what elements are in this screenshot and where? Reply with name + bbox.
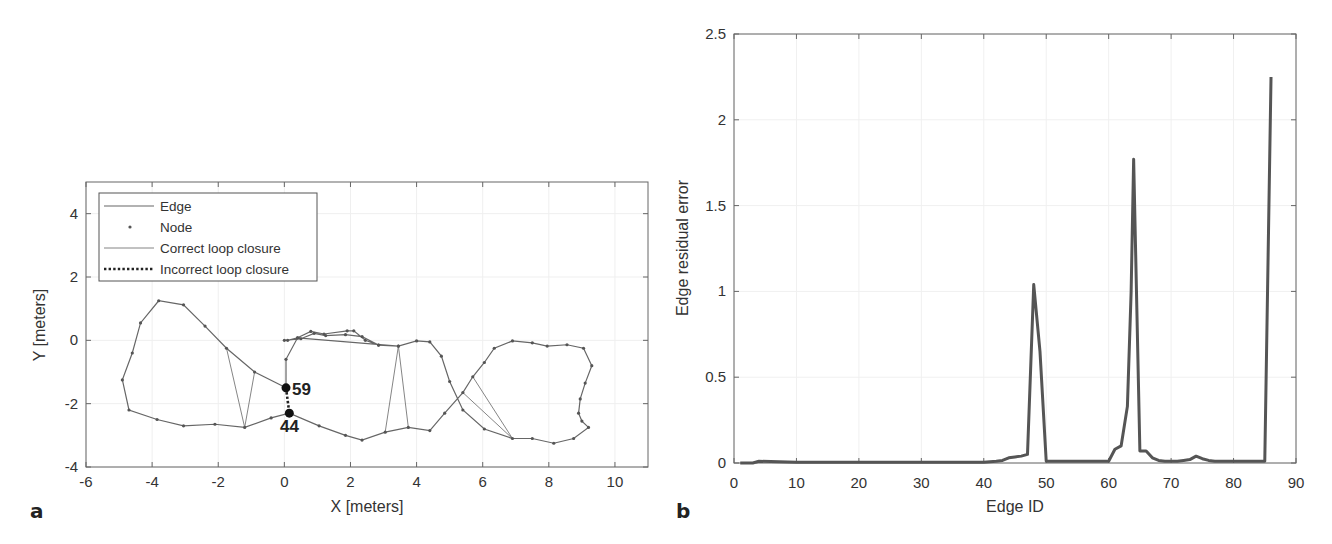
node-dot bbox=[121, 378, 124, 381]
node-dot bbox=[377, 343, 380, 346]
node-dot bbox=[448, 380, 451, 383]
node-44-label: 44 bbox=[280, 417, 299, 436]
panel-b-axes-box bbox=[734, 34, 1296, 463]
x-tick-label: 70 bbox=[1163, 474, 1180, 491]
x-tick-label: 40 bbox=[975, 474, 992, 491]
node-dot bbox=[483, 427, 486, 430]
node-dot bbox=[213, 423, 216, 426]
node-dot bbox=[531, 341, 534, 344]
x-tick-label: 8 bbox=[545, 473, 553, 490]
node-dot bbox=[243, 426, 246, 429]
node-dot bbox=[324, 334, 327, 337]
node-dot bbox=[511, 339, 514, 342]
node-dot bbox=[296, 336, 299, 339]
node-dot bbox=[182, 424, 185, 427]
node-dot bbox=[317, 424, 320, 427]
x-tick-label: 30 bbox=[913, 474, 930, 491]
y-tick-label: 2 bbox=[70, 268, 78, 285]
y-tick-label: 1 bbox=[718, 282, 726, 299]
node-dot bbox=[270, 416, 273, 419]
panel-a-letter: a bbox=[30, 499, 44, 523]
node-dot bbox=[579, 397, 582, 400]
node-dot bbox=[203, 324, 206, 327]
correct-loop-closure bbox=[385, 346, 398, 432]
node-dot bbox=[352, 329, 355, 332]
node-dot bbox=[397, 344, 400, 347]
node-dot bbox=[580, 419, 583, 422]
node-dot bbox=[552, 442, 555, 445]
node-dot bbox=[461, 408, 464, 411]
x-tick-label: -2 bbox=[212, 473, 225, 490]
y-tick-label: 4 bbox=[70, 205, 78, 222]
figure: -6-4-20246810-4-2024 Edge Node Correct l… bbox=[0, 0, 1332, 544]
node-dot bbox=[360, 335, 363, 338]
y-tick-label: 0 bbox=[718, 454, 726, 471]
x-tick-label: 10 bbox=[788, 474, 805, 491]
legend-node-dot-icon bbox=[128, 225, 131, 228]
node-dot bbox=[284, 358, 287, 361]
node-dot bbox=[157, 299, 160, 302]
panel-a-correct-loop-closures bbox=[227, 346, 513, 438]
y-tick-label: 2.5 bbox=[705, 25, 726, 42]
node-dot bbox=[313, 332, 316, 335]
node-dot bbox=[415, 339, 418, 342]
y-tick-label: 1.5 bbox=[705, 197, 726, 214]
x-tick-label: 90 bbox=[1288, 474, 1305, 491]
x-tick-label: -4 bbox=[145, 473, 158, 490]
panel-b-grid bbox=[734, 34, 1296, 463]
legend-node-label: Node bbox=[160, 220, 192, 235]
node-dot bbox=[493, 347, 496, 350]
node-dot bbox=[471, 375, 474, 378]
node-dot bbox=[344, 333, 347, 336]
node-dot bbox=[565, 343, 568, 346]
node-dot bbox=[440, 355, 443, 358]
node-dot bbox=[253, 370, 256, 373]
node-dot bbox=[584, 381, 587, 384]
y-tick-label: -2 bbox=[65, 395, 78, 412]
node-dot bbox=[364, 339, 367, 342]
panel-a-y-axis-label: Y [meters] bbox=[31, 289, 48, 362]
correct-loop-closure bbox=[398, 346, 408, 427]
legend-incorrect-loop-label: Incorrect loop closure bbox=[160, 262, 289, 277]
x-tick-label: 0 bbox=[280, 473, 288, 490]
node-dot bbox=[461, 391, 464, 394]
node-dot bbox=[587, 426, 590, 429]
legend-edge-label: Edge bbox=[160, 199, 192, 214]
node-dot bbox=[407, 426, 410, 429]
y-tick-label: 2 bbox=[718, 111, 726, 128]
node-dot bbox=[590, 364, 593, 367]
y-tick-label: 0 bbox=[70, 331, 78, 348]
correct-loop-closure bbox=[245, 372, 255, 427]
node-dot bbox=[360, 438, 363, 441]
node-dot bbox=[428, 429, 431, 432]
node-dot bbox=[483, 361, 486, 364]
node-59-marker bbox=[282, 383, 291, 392]
panel-b-letter: b bbox=[676, 499, 690, 523]
x-tick-label: 60 bbox=[1100, 474, 1117, 491]
node-dot bbox=[428, 340, 431, 343]
node-dot bbox=[299, 337, 302, 340]
panel-b-ticks: 010203040506070809000.511.522.5 bbox=[705, 25, 1304, 491]
node-dot bbox=[225, 347, 228, 350]
x-tick-label: 80 bbox=[1225, 474, 1242, 491]
node-dot bbox=[155, 418, 158, 421]
node-dot bbox=[443, 412, 446, 415]
panel-b-residual-line bbox=[740, 77, 1271, 463]
node-dot bbox=[286, 339, 289, 342]
node-dot bbox=[384, 431, 387, 434]
node-dot bbox=[127, 408, 130, 411]
node-dot bbox=[309, 330, 312, 333]
node-dot bbox=[577, 412, 580, 415]
panel-a-x-axis-label: X [meters] bbox=[331, 498, 404, 515]
panel-b-residual-plot: 010203040506070809000.511.522.5 Edge ID … bbox=[674, 25, 1304, 523]
x-tick-label: 0 bbox=[730, 474, 738, 491]
panel-a-trajectory bbox=[121, 299, 594, 445]
correct-loop-closure bbox=[227, 348, 245, 427]
x-tick-label: 2 bbox=[346, 473, 354, 490]
x-tick-label: 20 bbox=[851, 474, 868, 491]
panel-b-x-axis-label: Edge ID bbox=[986, 498, 1044, 515]
panel-a-legend: Edge Node Correct loop closure Incorrect… bbox=[99, 193, 317, 281]
x-tick-label: 6 bbox=[479, 473, 487, 490]
node-59-label: 59 bbox=[292, 380, 311, 399]
y-tick-label: -4 bbox=[65, 458, 78, 475]
